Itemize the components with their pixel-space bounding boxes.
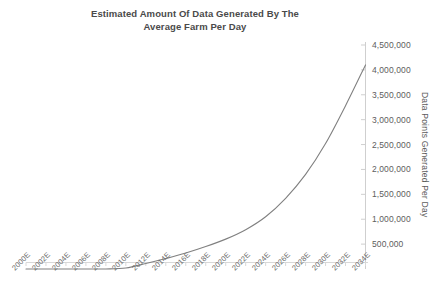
data-series-line <box>26 65 366 269</box>
y-axis-tick-label: 1,500,000 <box>372 189 411 199</box>
y-axis-tick-label: 4,500,000 <box>372 40 411 50</box>
y-axis-tick-label: 3,000,000 <box>372 115 411 125</box>
y-axis-ticks <box>361 45 366 244</box>
y-axis-tick-label: 2,000,000 <box>372 164 411 174</box>
y-axis-tick-label: 4,000,000 <box>372 65 411 75</box>
y-axis-tick-label: 2,500,000 <box>372 140 411 150</box>
y-axis-tick-label: 500,000 <box>372 239 403 249</box>
chart-container: Estimated Amount Of Data Generated By Th… <box>0 0 447 308</box>
y-axis-title: Data Points Generated Per Day <box>418 55 432 255</box>
axis-group <box>26 42 368 269</box>
y-axis-tick-label: 3,500,000 <box>372 90 411 100</box>
y-axis-tick-label: 1,000,000 <box>372 214 411 224</box>
